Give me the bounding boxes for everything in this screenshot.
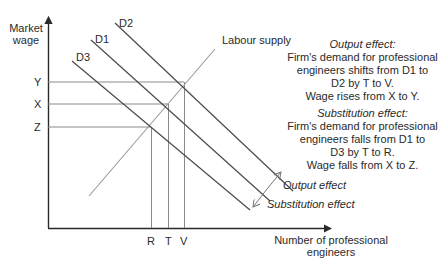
output-effect-line2: engineers shifts from D1 to: [285, 64, 440, 77]
y-axis-title: Market wage: [6, 22, 46, 46]
demand-curve-d3: [72, 61, 250, 210]
output-effect-heading: Output effect:: [285, 38, 440, 51]
label-labour-supply: Labour supply: [222, 34, 291, 46]
demand-curve-d1: [91, 40, 270, 201]
x-axis-title-line2: engineers: [268, 246, 394, 258]
demand-curve-d2: [115, 23, 293, 191]
y-tick-y: Y: [34, 76, 41, 88]
substitution-effect-line4: Wage falls from X to Z.: [285, 159, 440, 172]
y-axis-title-line2: wage: [6, 34, 46, 46]
x-axis-title: Number of professional engineers: [268, 234, 394, 258]
y-tick-z: Z: [34, 121, 41, 133]
label-d3: D3: [76, 51, 90, 63]
substitution-effect-line1: Firm's demand for professional: [285, 120, 440, 133]
substitution-effect-line2: engineers falls from D1 to: [285, 133, 440, 146]
label-substitution-effect-arrow: Substitution effect: [267, 198, 354, 210]
output-effect-annotation: Output effect: Firm's demand for profess…: [285, 38, 440, 103]
substitution-effect-heading: Substitution effect:: [285, 107, 440, 120]
x-tick-r: R: [147, 235, 155, 247]
output-effect-line1: Firm's demand for professional: [285, 51, 440, 64]
y-tick-x: X: [34, 98, 41, 110]
output-effect-line3: D2 by T to V.: [285, 77, 440, 90]
label-d2: D2: [119, 17, 133, 29]
y-axis-title-line1: Market: [6, 22, 46, 34]
x-tick-v: V: [180, 235, 187, 247]
label-d1: D1: [95, 33, 109, 45]
x-tick-t: T: [165, 235, 172, 247]
x-axis-title-line1: Number of professional: [268, 234, 394, 246]
output-effect-line4: Wage rises from X to Y.: [285, 90, 440, 103]
label-output-effect-arrow: Output effect: [283, 179, 346, 191]
effect-arrow: [267, 172, 281, 189]
substitution-effect-line3: D3 by T to R.: [285, 146, 440, 159]
substitution-effect-annotation: Substitution effect: Firm's demand for p…: [285, 107, 440, 172]
